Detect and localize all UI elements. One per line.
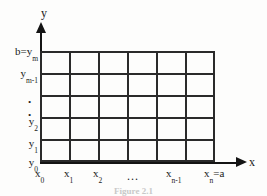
- gridline-vertical: [213, 51, 215, 162]
- gridline-horizontal: [40, 139, 215, 141]
- x-tick-base-2: x: [93, 167, 99, 179]
- y-axis-arrow-icon: [36, 22, 46, 33]
- y-tick-sub-m: m: [32, 54, 38, 63]
- x-tick-sub-2: 2: [99, 176, 103, 185]
- gridline-vertical: [156, 51, 158, 162]
- y-tick-sub-1: 1: [34, 146, 38, 155]
- x-tick-label-n-1: xn-1: [166, 168, 182, 179]
- y-tick-label-m-1: ym-1: [0, 68, 38, 79]
- y-tick-prefix-m: b=: [15, 45, 27, 57]
- figure-canvas: y x b=ym ym-1 . . y2 y1 y0 x0 x1: [0, 0, 267, 196]
- gridline-vertical: [127, 51, 129, 162]
- y-axis-label: y: [41, 7, 47, 19]
- y-tick-sub-2: 2: [34, 124, 38, 133]
- x-tick-base-n-1: x: [166, 167, 172, 179]
- grid-region: [40, 51, 215, 162]
- x-axis-label: x: [249, 156, 255, 168]
- figure-caption: Figure 2.1: [0, 187, 267, 196]
- y-tick-label-1: y1: [0, 138, 38, 149]
- gridline-vertical: [185, 51, 187, 162]
- y-tick-label-0: y0: [0, 157, 38, 168]
- x-tick-label-1: x1: [64, 168, 73, 179]
- y-tick-label-m: b=ym: [0, 46, 38, 57]
- x-tick-label-0: x0: [35, 168, 44, 179]
- x-tick-label-n: xn=a: [204, 168, 224, 179]
- x-tick-sub-1: 1: [70, 176, 74, 185]
- gridline-horizontal: [40, 51, 215, 53]
- gridline-horizontal: [40, 117, 215, 119]
- x-tick-base-0: x: [35, 167, 41, 179]
- gridline-vertical: [69, 51, 71, 162]
- x-tick-label-2: x2: [93, 168, 102, 179]
- x-tick-suffix-n: =a: [213, 167, 224, 179]
- x-tick-sub-0: 0: [41, 176, 45, 185]
- gridline-horizontal: [40, 95, 215, 97]
- x-tick-sub-n: n: [210, 176, 214, 185]
- x-tick-base-1: x: [64, 167, 70, 179]
- x-tick-sub-n-1: n-1: [172, 176, 182, 185]
- gridline-horizontal: [40, 73, 215, 75]
- y-tick-label-2: y2: [0, 116, 38, 127]
- x-axis-arrow-icon: [236, 157, 247, 167]
- x-tick-base-n: x: [204, 167, 210, 179]
- y-tick-sub-m-1: m-1: [26, 76, 38, 85]
- gridline-vertical: [98, 51, 100, 162]
- gridline-horizontal: [40, 160, 215, 162]
- gridline-vertical: [40, 51, 42, 162]
- x-axis-ellipsis: ...: [127, 170, 139, 182]
